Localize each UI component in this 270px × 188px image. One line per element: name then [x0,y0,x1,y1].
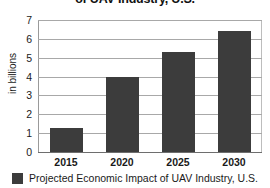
gridline [38,152,262,153]
y-axis-tick: 1 [2,128,32,138]
chart-legend: Projected Economic Impact of UAV Industr… [0,172,270,184]
legend-item-label: Projected Economic Impact of UAV Industr… [29,172,258,184]
y-axis-tick: 2 [2,109,32,119]
chart-title: of UAV Industry, U.S. [0,0,270,7]
bar-chart: of UAV Industry, U.S. in billions 765432… [0,0,270,188]
y-axis-tick: 6 [2,34,32,44]
legend-swatch-icon [12,173,23,184]
x-axis-tick: 2020 [94,156,150,168]
y-axis-tick: 3 [2,90,32,100]
y-axis-tick: 5 [2,53,32,63]
bar [162,52,195,152]
x-axis-tick: 2030 [206,156,262,168]
bar [106,77,139,152]
gridline [38,20,262,21]
y-axis-tick: 4 [2,72,32,82]
bar [218,31,251,152]
y-axis-tick: 7 [2,15,32,25]
bar [50,128,83,153]
x-axis-tick: 2025 [150,156,206,168]
x-axis-tick: 2015 [38,156,94,168]
plot-area [38,20,262,152]
y-axis-tick: 0 [2,147,32,157]
